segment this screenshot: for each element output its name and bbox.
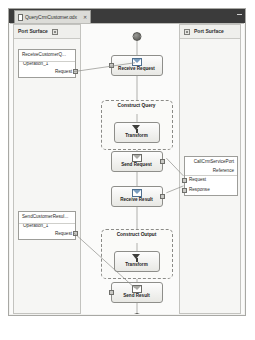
tab-query-crm-customer[interactable]: QueryCrmCustomer.odx ✕: [14, 10, 91, 23]
orchestration-flow: Receive Request Construct Query Transfor…: [84, 24, 189, 314]
port-message: Request: [19, 228, 75, 237]
document-icon: [18, 14, 23, 21]
group-construct-query[interactable]: Construct Query Transform: [101, 100, 173, 150]
receive-envelope-icon: [132, 58, 142, 66]
tab-label: QueryCrmCustomer.odx: [25, 15, 77, 20]
right-port-surface-header: Port Surface: [180, 25, 240, 39]
port-chip-icon[interactable]: [52, 29, 58, 35]
node-receive-result[interactable]: Receive Result: [111, 186, 163, 207]
node-label: Receive Request: [118, 67, 155, 72]
send-envelope-icon: [132, 154, 142, 162]
port-box-send-customer-result[interactable]: SendCustomerResul... Operation_1 Request: [18, 211, 76, 240]
node-label: Transform: [125, 134, 147, 139]
node-port-icon[interactable]: [109, 290, 114, 295]
left-port-surface-title: Port Surface: [18, 29, 48, 34]
node-receive-request[interactable]: Receive Request: [111, 55, 163, 76]
right-port-surface-title: Port Surface: [194, 29, 224, 34]
end-marker-icon[interactable]: [132, 313, 141, 314]
port-box-receive-customer-query[interactable]: ReceiveCustomerQ... Operation_1 Request: [18, 49, 76, 78]
orchestration-canvas[interactable]: Port Surface ReceiveCustomerQ... Operati…: [10, 23, 244, 314]
node-label: Send Result: [123, 294, 150, 299]
start-marker-icon[interactable]: [132, 32, 141, 41]
node-label: Send Request: [121, 163, 152, 168]
send-envelope-icon: [132, 285, 142, 293]
transform-funnel-icon: [132, 125, 141, 133]
left-port-surface[interactable]: Port Surface ReceiveCustomerQ... Operati…: [13, 24, 81, 314]
group-label: Construct Query: [102, 101, 172, 109]
close-icon[interactable]: ✕: [83, 15, 87, 20]
node-transform-output[interactable]: Transform: [114, 251, 160, 272]
screenshot-root: QueryCrmCustomer.odx ✕ Port Surface Rece…: [0, 0, 255, 340]
node-label: Transform: [125, 263, 147, 268]
node-transform-query[interactable]: Transform: [114, 122, 160, 143]
node-label: Receive Result: [120, 198, 153, 203]
port-handle-icon[interactable]: [73, 69, 78, 74]
minimize-icon[interactable]: [237, 14, 242, 15]
port-message: Response: [185, 183, 237, 193]
node-port-icon[interactable]: [160, 159, 165, 164]
left-port-surface-header: Port Surface: [14, 25, 80, 39]
designer-window: QueryCrmCustomer.odx ✕ Port Surface Rece…: [8, 8, 246, 316]
port-box-call-crm-service[interactable]: CallCrmServicePort Reference Request Res…: [184, 156, 238, 196]
node-port-icon[interactable]: [109, 63, 114, 68]
port-message: Request: [19, 66, 75, 75]
node-send-result[interactable]: Send Result: [111, 282, 163, 303]
group-label: Construct Output: [102, 230, 172, 238]
port-name: SendCustomerResul...: [19, 212, 75, 220]
port-operation: Reference: [185, 165, 237, 174]
port-handle-icon[interactable]: [73, 231, 78, 236]
node-send-request[interactable]: Send Request: [111, 151, 163, 172]
transform-funnel-icon: [132, 254, 141, 262]
node-port-icon[interactable]: [160, 194, 165, 199]
port-name: CallCrmServicePort: [185, 157, 237, 165]
group-construct-output[interactable]: Construct Output Transform: [101, 229, 173, 279]
port-name: ReceiveCustomerQ...: [19, 50, 75, 58]
tab-strip: QueryCrmCustomer.odx ✕: [9, 9, 245, 23]
receive-envelope-icon: [132, 189, 142, 197]
